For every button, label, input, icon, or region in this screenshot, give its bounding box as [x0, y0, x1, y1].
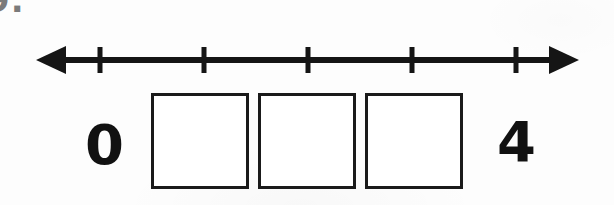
- number-line-tick: [306, 47, 311, 73]
- number-line-tick: [98, 47, 103, 73]
- number-line-tick: [514, 47, 519, 73]
- answer-box-row: [151, 93, 463, 189]
- answer-box[interactable]: [258, 93, 356, 189]
- answer-box[interactable]: [151, 93, 249, 189]
- arrow-right-icon: [549, 46, 579, 74]
- number-line-tick: [410, 47, 415, 73]
- worksheet-page: 9. 0 4: [0, 0, 614, 205]
- answer-box[interactable]: [365, 93, 463, 189]
- problem-number: 9.: [0, 0, 25, 17]
- arrow-left-icon: [36, 46, 66, 74]
- number-line-start-label: 0: [85, 117, 124, 173]
- number-line-tick: [202, 47, 207, 73]
- number-line: [36, 43, 579, 79]
- number-line-end-label: 4: [497, 114, 536, 170]
